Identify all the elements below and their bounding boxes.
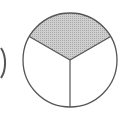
shaded-sector — [29, 13, 110, 60]
partial-circle-left — [1, 48, 5, 78]
fraction-diagram — [0, 0, 127, 117]
